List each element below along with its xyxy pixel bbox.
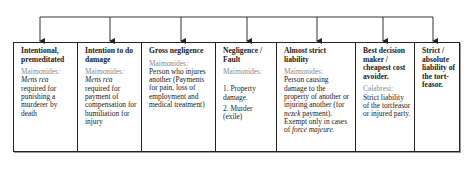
column-body: Person who injures another (Payments for… [149, 68, 212, 109]
source-label: Maimonides: [223, 68, 273, 76]
column-best-decision-maker: Best decision maker / cheapest cost avoi… [356, 43, 415, 151]
column-intention-to-do-damage: Intention to do damage Maimonides: Mens … [78, 43, 142, 151]
column-body: Person causing damage to the property of… [284, 76, 352, 134]
liability-spectrum-row: Intentional, premeditated Maimonides: Me… [13, 42, 460, 152]
column-gross-negligence: Gross negligence Maimonides: Person who … [142, 43, 216, 151]
column-body: required for punishing a murderer by dea… [21, 84, 57, 118]
list-item: 1. Property damage. [223, 85, 273, 102]
list-item: 2. Murder (exile) [223, 105, 273, 122]
column-body: required for payment of compensation for… [85, 84, 137, 126]
column-strict-absolute-liability: Strict / absolute liability of the tort-… [415, 43, 459, 151]
column-title: Intention to do damage [85, 47, 138, 64]
column-almost-strict-liability: Almost strict liability Maimonides: Pers… [277, 43, 356, 151]
column-title: Gross negligence [149, 47, 212, 56]
column-title: Best decision maker / cheapest cost avoi… [363, 47, 411, 81]
column-title: Negligence / Fault [223, 47, 273, 64]
column-title: Intentional, premeditated [21, 47, 74, 64]
column-title: Almost strict liability [284, 47, 352, 64]
column-intentional-premeditated: Intentional, premeditated Maimonides: Me… [14, 43, 78, 151]
column-negligence-fault: Negligence / Fault Maimonides: 1. Proper… [216, 43, 277, 151]
column-body: Strict liability of the tortfeasor or in… [363, 94, 411, 119]
column-title: Strict / absolute liability of the tort-… [422, 47, 456, 90]
